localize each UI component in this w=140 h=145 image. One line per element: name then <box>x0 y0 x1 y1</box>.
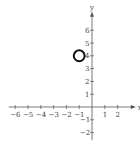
circle-shape <box>74 50 85 61</box>
x-tick-label: −5 <box>23 111 33 119</box>
y-axis-label: y <box>89 4 94 12</box>
x-tick-label: −3 <box>49 111 59 119</box>
y-tick-label: 4 <box>85 52 90 60</box>
y-tick-label: 1 <box>85 91 89 99</box>
x-tick-label: 2 <box>116 111 120 119</box>
x-tick-label: −2 <box>61 111 71 119</box>
coordinate-plot: xy−6−5−4−3−2−112−2−1123456 <box>0 0 140 145</box>
x-tick-label: −6 <box>10 111 21 119</box>
y-tick-label: 2 <box>85 78 89 86</box>
y-axis-arrow-icon <box>90 12 94 17</box>
x-axis-arrow-icon <box>131 105 136 109</box>
y-tick-label: −1 <box>80 116 90 124</box>
x-tick-label: 1 <box>103 111 107 119</box>
y-tick-label: −2 <box>80 129 90 137</box>
x-axis-label: x <box>138 104 140 112</box>
y-tick-label: 5 <box>85 40 89 48</box>
y-tick-label: 3 <box>85 65 89 73</box>
x-tick-label: −4 <box>36 111 47 119</box>
y-tick-label: 6 <box>85 27 90 35</box>
